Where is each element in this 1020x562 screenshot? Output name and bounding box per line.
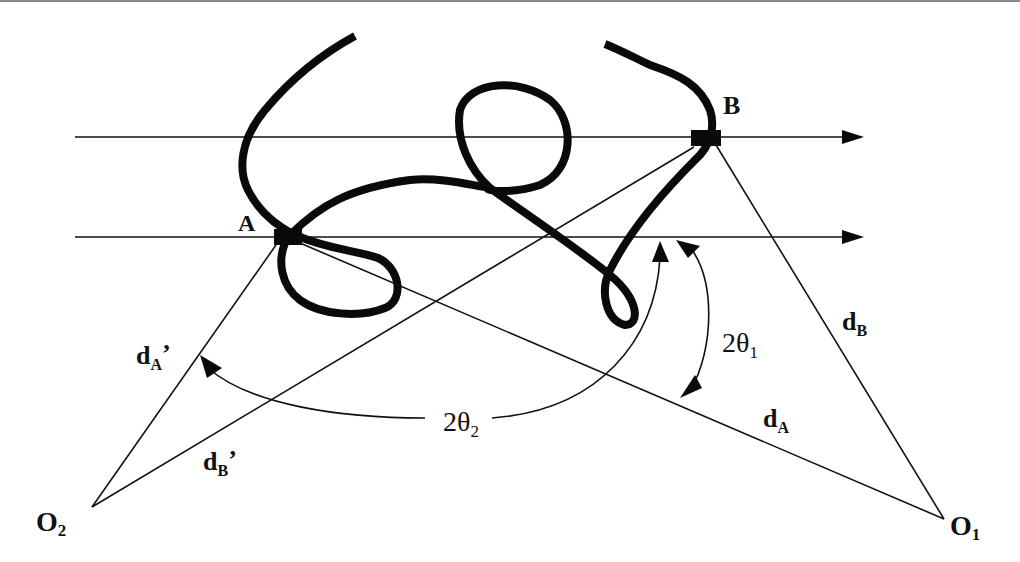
ray-a-to-o2 [92,245,276,507]
incident-ray-bottom-arrowhead [842,230,864,244]
angle-arc-theta1-arrow-top [676,240,700,258]
label-distance-da: dA [763,404,789,436]
angle-arc-theta2-right [492,258,660,418]
label-distance-da-prime: dA’ [136,339,171,373]
angle-arc-theta2 [208,368,425,418]
polymer-chain [242,36,397,314]
ray-b-to-o2 [92,147,694,507]
label-distance-db: dB [842,307,867,339]
label-point-a: A [238,210,256,236]
label-angle-theta1: 2θ1 [722,327,758,362]
scattering-diagram: A B O1 O2 dA dB dA’ dB’ 2θ1 2θ2 [0,0,1020,562]
angle-arc-theta1 [690,247,709,392]
label-angle-theta2: 2θ2 [443,406,479,441]
label-distance-db-prime: dB’ [203,445,237,479]
point-b-marker [691,130,721,146]
polymer-chain-mid [290,44,712,325]
angle-arc-theta1-arrow-bottom [680,375,702,398]
angle-arc-theta2-arrow-left [200,355,222,378]
angle-arc-theta2-arrow-up [652,241,669,262]
label-point-b: B [723,91,740,120]
point-a-marker [274,229,302,245]
ray-b-to-o1 [716,145,944,519]
label-observer-o2: O2 [36,506,66,540]
label-observer-o1: O1 [950,510,980,544]
incident-ray-top-arrowhead [842,130,864,144]
